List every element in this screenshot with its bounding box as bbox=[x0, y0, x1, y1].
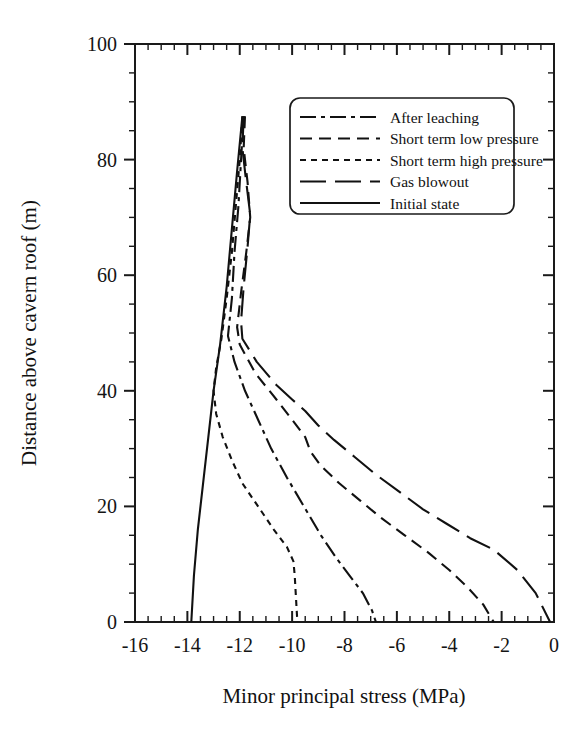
legend-label-short-term-low-pressure: Short term low pressure bbox=[390, 130, 539, 147]
chart-legend: After leachingShort term low pressureSho… bbox=[290, 98, 543, 214]
legend-label-gas-blowout: Gas blowout bbox=[390, 173, 469, 190]
y-tick-label: 20 bbox=[97, 495, 117, 517]
x-axis-title: Minor principal stress (MPa) bbox=[222, 684, 465, 708]
x-tick-label: -12 bbox=[226, 634, 253, 656]
legend-label-after-leaching: After leaching bbox=[390, 109, 479, 126]
y-tick-label: 40 bbox=[97, 380, 117, 402]
stress-profile-chart: -16-14-12-10-8-6-4-20 020406080100 After… bbox=[0, 0, 585, 747]
y-tick-label: 80 bbox=[97, 149, 117, 171]
x-tick-label: -10 bbox=[279, 634, 306, 656]
x-tick-label: -4 bbox=[441, 634, 458, 656]
figure-page: -16-14-12-10-8-6-4-20 020406080100 After… bbox=[0, 0, 585, 747]
y-tick-label: 0 bbox=[107, 611, 117, 633]
legend-label-short-term-high-pressure: Short term high pressure bbox=[390, 152, 543, 169]
y-tick-label: 60 bbox=[97, 264, 117, 286]
y-tick-label: 100 bbox=[87, 33, 117, 55]
y-axis-title: Distance above cavern roof (m) bbox=[17, 200, 41, 466]
x-tick-label: -2 bbox=[493, 634, 510, 656]
x-tick-label: 0 bbox=[549, 634, 559, 656]
x-axis-tick-labels: -16-14-12-10-8-6-4-20 bbox=[122, 634, 559, 656]
x-tick-label: -16 bbox=[122, 634, 149, 656]
x-tick-label: -6 bbox=[389, 634, 406, 656]
legend-label-initial-state: Initial state bbox=[390, 195, 459, 212]
x-tick-label: -8 bbox=[336, 634, 353, 656]
x-tick-label: -14 bbox=[174, 634, 201, 656]
